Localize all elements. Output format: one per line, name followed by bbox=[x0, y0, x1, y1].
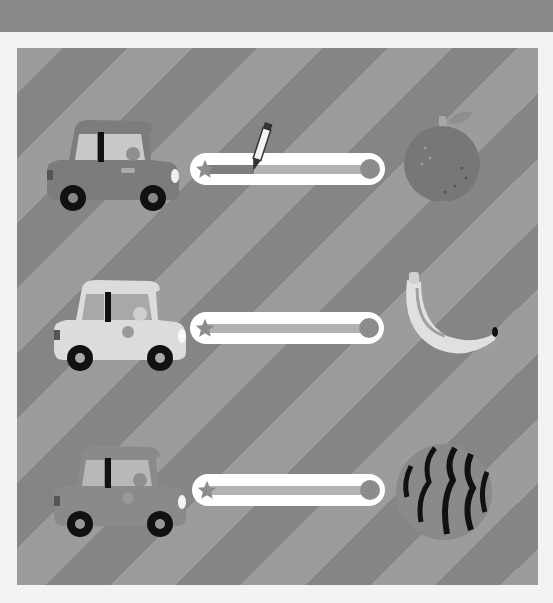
watermelon-icon[interactable] bbox=[393, 442, 495, 542]
star-start-icon bbox=[196, 479, 218, 501]
orange-icon[interactable] bbox=[400, 106, 490, 201]
car-3-icon[interactable] bbox=[52, 444, 190, 539]
star-start-icon bbox=[194, 158, 216, 180]
star-start-icon bbox=[194, 317, 216, 339]
banana-icon[interactable] bbox=[395, 270, 505, 365]
game-board bbox=[17, 48, 538, 585]
end-point-dot bbox=[360, 159, 380, 179]
trace-lane bbox=[204, 324, 370, 333]
trace-track-2[interactable] bbox=[190, 312, 384, 344]
crayon-icon[interactable] bbox=[249, 120, 273, 174]
trace-track-1[interactable] bbox=[190, 153, 385, 185]
car-1-icon[interactable] bbox=[45, 118, 183, 213]
top-bar bbox=[0, 0, 553, 32]
trace-lane bbox=[206, 486, 371, 495]
car-2-icon[interactable] bbox=[52, 278, 190, 373]
trace-track-3[interactable] bbox=[192, 474, 385, 506]
end-point-dot bbox=[359, 318, 379, 338]
end-point-dot bbox=[360, 480, 380, 500]
